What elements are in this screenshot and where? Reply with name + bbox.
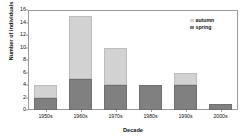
legend-swatch-autumn-icon <box>190 19 194 23</box>
y-tick-mark <box>26 10 28 11</box>
y-tick-mark <box>26 22 28 23</box>
x-tick-label: 1980s <box>133 113 168 119</box>
y-tick-label: 2 <box>0 95 26 100</box>
bar-segment-spring <box>69 79 91 110</box>
bar-group <box>34 10 56 110</box>
bar-segment-autumn <box>174 73 196 86</box>
x-tick-mark <box>186 110 187 112</box>
bar-segment-spring <box>209 104 231 110</box>
y-tick-label: 16 <box>0 7 26 12</box>
y-tick-label: 8 <box>0 57 26 62</box>
legend-label-spring: spring <box>196 24 212 31</box>
legend-label-autumn: autumn <box>196 17 215 24</box>
x-tick-label: 2000s <box>203 113 238 119</box>
y-tick-mark <box>26 72 28 73</box>
x-tick-label: 1950s <box>28 113 63 119</box>
y-tick-label: 0 <box>0 107 26 112</box>
legend-swatch-spring-icon <box>190 26 194 30</box>
y-tick-label: 10 <box>0 45 26 50</box>
legend-item-spring: spring <box>190 24 214 31</box>
y-tick-mark <box>26 47 28 48</box>
bar-segment-spring <box>174 85 196 110</box>
bar-segment-autumn <box>104 48 126 86</box>
legend-item-autumn: autumn <box>190 17 214 24</box>
bar-segment-spring <box>104 85 126 110</box>
bar-group <box>139 10 161 110</box>
x-tick-mark <box>116 110 117 112</box>
x-tick-mark <box>81 110 82 112</box>
bar-group <box>69 10 91 110</box>
x-tick-mark <box>46 110 47 112</box>
y-tick-mark <box>26 110 28 111</box>
y-tick-mark <box>26 85 28 86</box>
bar-segment-spring <box>139 85 161 110</box>
x-axis-title: Decade <box>28 127 238 133</box>
chart-legend: autumn spring <box>190 17 214 31</box>
x-tick-mark <box>151 110 152 112</box>
x-tick-label: 1960s <box>63 113 98 119</box>
stacked-bar-chart: Number of individuals 0246810121416 1950… <box>0 0 245 138</box>
y-tick-mark <box>26 35 28 36</box>
y-tick-mark <box>26 97 28 98</box>
y-tick-label: 6 <box>0 70 26 75</box>
y-tick-label: 14 <box>0 20 26 25</box>
x-tick-label: 1990s <box>168 113 203 119</box>
bar-segment-autumn <box>34 85 56 98</box>
bar-segment-spring <box>34 98 56 111</box>
bar-group <box>104 10 126 110</box>
bar-segment-autumn <box>69 16 91 79</box>
x-tick-label: 1970s <box>98 113 133 119</box>
y-tick-mark <box>26 60 28 61</box>
y-tick-label: 4 <box>0 82 26 87</box>
x-tick-mark <box>221 110 222 112</box>
y-tick-label: 12 <box>0 32 26 37</box>
